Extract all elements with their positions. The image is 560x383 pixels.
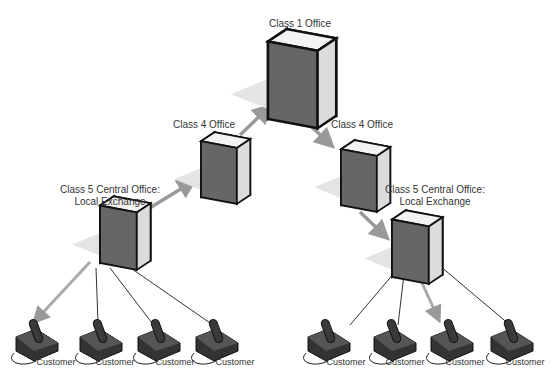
class5-right-label-line2: Local Exchange <box>399 196 471 207</box>
class1-label: Class 1 Office <box>269 18 331 29</box>
class5-right-switch <box>364 210 442 284</box>
class5-left-label-line1: Class 5 Central Office: <box>60 184 160 195</box>
customer-label: Customer <box>505 357 544 367</box>
class5-left-label-line2: Local Exchange <box>74 196 146 207</box>
hierarchy-diagram: Class 1 Office Class 4 Office Class 4 Of… <box>0 0 560 383</box>
customer-label: Customer <box>36 357 75 367</box>
class4-left-switch <box>174 132 250 204</box>
customer-label: Customer <box>326 357 365 367</box>
class5-right-label-line1: Class 5 Central Office: <box>385 184 485 195</box>
customer-label: Customer <box>385 357 424 367</box>
class5-left-switch <box>72 196 150 270</box>
class1-switch <box>231 29 336 128</box>
class4-left-label: Class 4 Office <box>173 119 235 130</box>
customer-label: Customer <box>95 357 134 367</box>
class4-right-label: Class 4 Office <box>331 119 393 130</box>
left-access-lines <box>36 262 213 325</box>
class4-right-switch <box>314 140 390 212</box>
customer-label: Customer <box>215 357 254 367</box>
customer-label: Customer <box>445 357 484 367</box>
customer-label: Customer <box>155 357 194 367</box>
